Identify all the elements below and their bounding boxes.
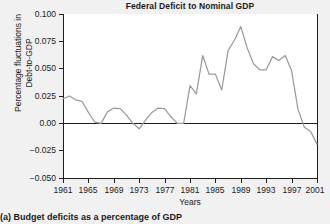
y-axis-label-line1: Percentage fluctuations in <box>13 14 23 112</box>
figure-panel: Federal Deficit to Nominal GDP 0.100 0.0… <box>0 0 330 224</box>
y-axis-label-line2: Debt-to-GDP <box>24 0 35 143</box>
chart-canvas <box>0 0 330 224</box>
x-axis-label: Years <box>63 197 317 207</box>
y-axis-label: Percentage fluctuations in Debt-to-GDP <box>13 0 35 143</box>
deficit-to-gdp-line <box>63 27 317 145</box>
figure-caption: (a) Budget deficits as a percentage of G… <box>0 212 330 223</box>
